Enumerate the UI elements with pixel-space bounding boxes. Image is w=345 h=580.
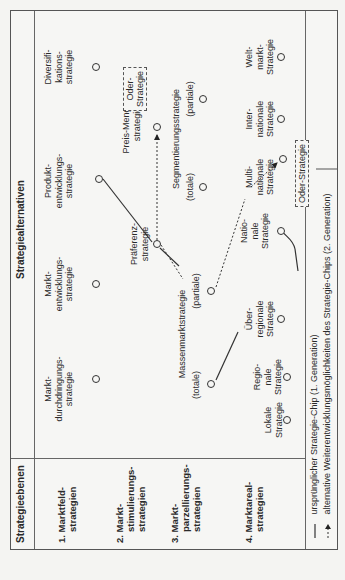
internationale-node bbox=[277, 115, 285, 123]
lokale-label: LokaleStrategie bbox=[263, 402, 284, 438]
massenmarkt-partiale-label: (partiale) bbox=[191, 273, 202, 309]
praeferenz-node bbox=[153, 240, 161, 248]
internationale-label: Inter-nationaleStrategie bbox=[244, 101, 276, 138]
ueberregionale-node bbox=[277, 315, 285, 323]
ueberregionale-label: Über-regionaleStrategie bbox=[244, 300, 276, 337]
massenmarkt-totale-node bbox=[207, 380, 215, 388]
solid-line-icon bbox=[310, 523, 320, 539]
multinationale-label: Multi-nationaleStrategie bbox=[244, 159, 276, 196]
marktentwicklung-label: Markt-entwicklungs-strategie bbox=[43, 257, 75, 312]
marktdurchdringung-label: Markt-durchdringungs-strategie bbox=[43, 356, 75, 421]
multinationale-node bbox=[279, 155, 287, 163]
segmentierung-totale-node bbox=[199, 183, 207, 191]
segmentierung-totale-label: (totale) bbox=[185, 173, 196, 201]
massenmarkt-partiale-node bbox=[207, 287, 215, 295]
strategy-chip-table: Strategieebenen Strategiealternativen 1.… bbox=[10, 10, 338, 550]
preis-mengen-node bbox=[153, 123, 161, 131]
weltmarkt-node bbox=[277, 53, 285, 61]
legend-dashed: alternative Weiterentwicklungsmöglichkei… bbox=[322, 193, 333, 539]
lokale-node bbox=[283, 416, 291, 424]
praeferenz-label: Präferenz-strategie bbox=[129, 223, 150, 265]
oder-strategie-box-top: Oder-Strategie bbox=[123, 67, 147, 111]
weltmarkt-label: Welt-markt-Strategie bbox=[244, 39, 276, 75]
segmentierung-partiale-node bbox=[199, 95, 207, 103]
segmentierung-partiale-label: (partiale) bbox=[185, 81, 196, 117]
regionale-label: Regio-naleStrategie bbox=[252, 359, 284, 395]
massenmarkt-totale-label: (totale) bbox=[191, 371, 202, 399]
nationale-label: Natio-naleStrategie bbox=[239, 213, 271, 249]
marktdurchdringung-node bbox=[92, 375, 100, 383]
nationale-node bbox=[277, 227, 285, 235]
massenmarkt-label: Massenmarktstrategie bbox=[177, 290, 188, 379]
produktentwicklung-label: Produkt-entwicklungs-strategie bbox=[43, 154, 75, 209]
dashed-arrow-icon bbox=[323, 523, 333, 539]
legend-solid: ursprünglicher Strategie-Chip (1. Genera… bbox=[309, 334, 320, 539]
produktentwicklung-node bbox=[95, 175, 103, 183]
regionale-node bbox=[283, 373, 291, 381]
oder-strategie-box-bottom: Oder-Strategie bbox=[295, 140, 309, 207]
diversifikation-node bbox=[92, 63, 100, 71]
marktentwicklung-node bbox=[92, 280, 100, 288]
diversifikation-label: Diversifi-kations-strategie bbox=[43, 50, 75, 85]
segmentierung-label: Segmentierungsstrategie bbox=[171, 89, 182, 189]
rotated-diagram: Strategieebenen Strategiealternativen 1.… bbox=[0, 0, 345, 580]
